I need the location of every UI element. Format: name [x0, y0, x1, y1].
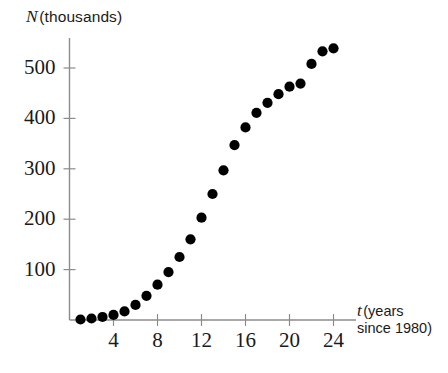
- data-point: [262, 98, 272, 108]
- data-point: [273, 89, 283, 99]
- data-point: [75, 314, 85, 324]
- axes-group: [70, 38, 357, 320]
- data-point: [218, 165, 228, 175]
- data-point: [251, 108, 261, 118]
- x-tick-label: 8: [133, 330, 183, 351]
- tick-marks-group: [64, 68, 334, 326]
- y-tick-label: 100: [0, 259, 56, 280]
- data-point: [152, 280, 162, 290]
- data-point: [97, 312, 107, 322]
- data-point: [284, 82, 294, 92]
- y-tick-label: 200: [0, 208, 56, 229]
- data-point: [240, 122, 250, 132]
- data-point: [196, 213, 206, 223]
- data-point: [163, 267, 173, 277]
- data-point: [185, 234, 195, 244]
- data-point: [141, 291, 151, 301]
- x-tick-label: 4: [89, 330, 139, 351]
- data-point: [86, 313, 96, 323]
- data-point: [130, 300, 140, 310]
- data-points-group: [75, 43, 338, 324]
- x-tick-label: 20: [265, 330, 315, 351]
- data-point: [174, 252, 184, 262]
- y-tick-label: 500: [0, 57, 56, 78]
- y-tick-label: 300: [0, 158, 56, 179]
- data-point: [229, 140, 239, 150]
- x-tick-label: 12: [177, 330, 227, 351]
- data-point: [295, 79, 305, 89]
- x-tick-label: 16: [221, 330, 271, 351]
- data-point: [317, 46, 327, 56]
- data-point: [207, 189, 217, 199]
- data-point: [306, 59, 316, 69]
- data-point: [108, 310, 118, 320]
- x-tick-label: 24: [309, 330, 359, 351]
- plot-canvas: [0, 0, 448, 373]
- data-point: [328, 43, 338, 53]
- data-point: [119, 306, 129, 316]
- y-tick-label: 400: [0, 107, 56, 128]
- scatter-plot-figure: N(thousands) t(years since 1980) 1002003…: [0, 0, 448, 373]
